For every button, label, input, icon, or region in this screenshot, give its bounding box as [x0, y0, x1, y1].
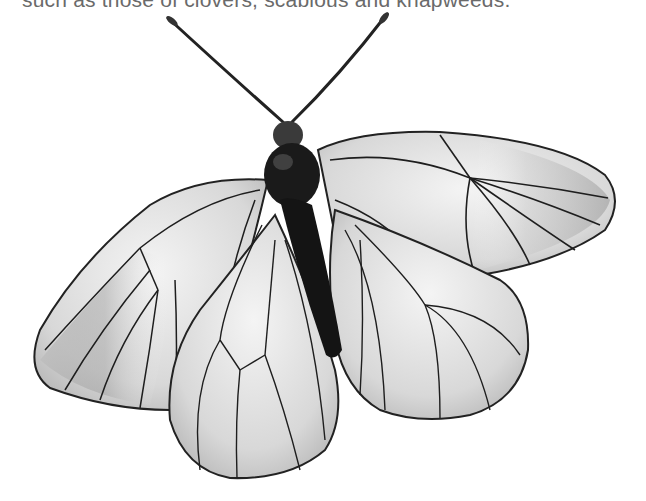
butterfly-photo	[0, 0, 646, 501]
antenna-right	[292, 11, 391, 122]
antenna-left	[165, 14, 283, 122]
